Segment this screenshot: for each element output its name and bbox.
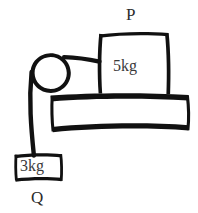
rope-vertical-segment [30, 72, 34, 156]
block-q-right-edge [59, 154, 63, 181]
label-mass-5kg: 5kg [113, 56, 137, 75]
table-top-edge [51, 93, 189, 101]
block-q-left-edge [14, 155, 17, 181]
block-q-bottom-edge [15, 177, 62, 182]
label-block-q: Q [31, 188, 43, 207]
table-left-edge [50, 96, 54, 132]
table-bottom-edge [52, 123, 189, 132]
rope-horizontal-segment [64, 57, 100, 61]
physics-diagram: P 5kg 3kg Q [0, 0, 198, 213]
rope-right-line [64, 57, 100, 61]
block-p-left-edge [98, 34, 103, 94]
table-surface-rect [50, 93, 190, 132]
table-right-edge [186, 95, 190, 130]
rope-left-line [30, 72, 34, 156]
block-p-right-edge [165, 33, 171, 94]
block-p-top-edge [99, 32, 169, 38]
diagram-canvas [0, 0, 198, 213]
label-block-p: P [126, 5, 135, 24]
label-mass-3kg: 3kg [20, 156, 44, 175]
